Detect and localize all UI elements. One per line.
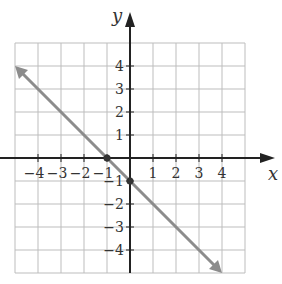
x-tick-label: 2 <box>172 165 181 181</box>
coordinate-plane: −4−3−2−112344321−1−2−3−4xy <box>0 0 282 284</box>
y-tick-label: −3 <box>103 219 124 235</box>
x-axis-arrow-icon <box>260 153 275 163</box>
x-tick-label: 1 <box>149 165 158 181</box>
y-tick-label: 1 <box>115 127 124 143</box>
x-tick-label: −2 <box>70 165 91 181</box>
x-tick-label: 3 <box>195 165 204 181</box>
y-tick-label: −4 <box>103 242 124 258</box>
y-axis-label: y <box>111 5 123 26</box>
x-tick-label: 4 <box>218 165 227 181</box>
y-tick-label: 4 <box>115 58 124 74</box>
intercept-point <box>127 178 134 185</box>
y-tick-label: 3 <box>115 81 124 97</box>
y-tick-label: −2 <box>103 196 124 212</box>
x-tick-label: −3 <box>47 165 68 181</box>
x-axis-label: x <box>268 163 278 184</box>
y-tick-label: 2 <box>115 104 124 120</box>
y-tick-label: −1 <box>103 173 124 189</box>
y-axis-arrow-icon <box>125 12 135 27</box>
x-tick-label: −4 <box>24 165 45 181</box>
intercept-point <box>104 155 111 162</box>
